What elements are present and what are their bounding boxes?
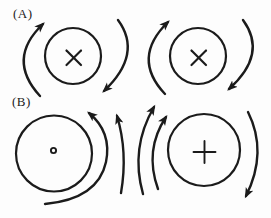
arrow-arc-up-outer-icon	[138, 107, 154, 194]
dot-ring-icon	[51, 148, 56, 153]
x-cross-icon	[67, 51, 82, 66]
panel-a-right-figure	[149, 20, 253, 94]
x-cross-icon	[192, 51, 207, 66]
magnetic-field-direction-diagram: (A) (B)	[0, 0, 271, 218]
arrow-arc-down-icon	[229, 20, 253, 89]
panel-b-left-figure	[16, 113, 124, 204]
panel-b-right-figure	[138, 107, 257, 196]
arrow-arc-up-icon	[24, 24, 43, 96]
arrow-arc-up-icon	[149, 22, 168, 94]
arrow-arc-up-inner-icon	[153, 117, 166, 189]
diagram-canvas	[0, 0, 271, 218]
plus-icon	[194, 141, 216, 163]
arrow-arc-up-icon	[117, 116, 124, 193]
arrow-arc-up-long-icon	[45, 113, 107, 204]
panel-a-left-figure	[24, 20, 128, 96]
arrow-arc-down-icon	[104, 20, 128, 91]
arrow-arc-down-icon	[246, 112, 258, 196]
